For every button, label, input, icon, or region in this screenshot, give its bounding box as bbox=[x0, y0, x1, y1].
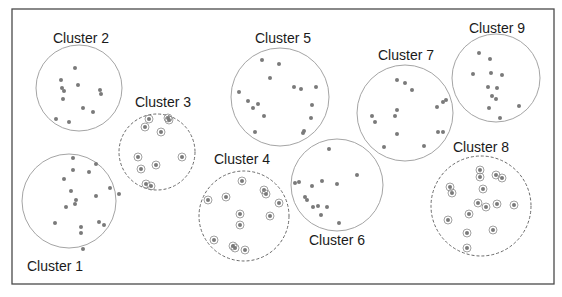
data-point bbox=[253, 130, 257, 134]
data-point bbox=[293, 181, 297, 185]
data-point bbox=[310, 103, 314, 107]
cluster-2: Cluster 2 bbox=[36, 30, 122, 131]
data-point bbox=[422, 144, 426, 148]
data-point bbox=[260, 58, 264, 62]
data-point bbox=[311, 205, 315, 209]
data-point bbox=[61, 97, 65, 101]
data-point bbox=[91, 110, 95, 114]
data-point bbox=[370, 114, 374, 118]
data-point bbox=[500, 73, 504, 77]
data-point bbox=[373, 120, 377, 124]
cluster-boundary bbox=[119, 114, 195, 190]
data-point bbox=[99, 92, 103, 96]
data-point bbox=[94, 194, 98, 198]
data-point bbox=[489, 71, 493, 75]
data-point bbox=[206, 198, 210, 202]
data-point bbox=[448, 185, 452, 189]
data-point bbox=[395, 132, 399, 136]
data-point bbox=[292, 85, 296, 89]
data-point bbox=[495, 86, 499, 90]
data-point bbox=[488, 57, 492, 61]
cluster-label: Cluster 3 bbox=[135, 94, 191, 110]
cluster-8: Cluster 8 bbox=[431, 139, 531, 256]
data-point bbox=[337, 221, 341, 225]
data-point bbox=[53, 221, 57, 225]
cluster-1: Cluster 1 bbox=[22, 154, 121, 274]
data-point bbox=[410, 88, 414, 92]
data-point bbox=[310, 184, 314, 188]
data-point bbox=[450, 191, 454, 195]
data-point bbox=[268, 214, 272, 218]
data-point bbox=[256, 102, 260, 106]
data-point bbox=[97, 220, 101, 224]
data-point bbox=[143, 125, 147, 129]
data-point bbox=[277, 201, 281, 205]
data-point bbox=[262, 114, 266, 118]
data-point bbox=[299, 87, 303, 91]
data-point bbox=[495, 202, 499, 206]
data-point bbox=[243, 248, 247, 252]
data-point bbox=[108, 186, 112, 190]
data-point bbox=[62, 177, 66, 181]
data-point bbox=[81, 247, 85, 251]
data-point bbox=[441, 130, 445, 134]
data-point bbox=[490, 94, 494, 98]
data-point bbox=[251, 106, 255, 110]
data-point bbox=[487, 106, 491, 110]
data-point bbox=[64, 205, 68, 209]
data-point bbox=[62, 89, 66, 93]
data-point bbox=[491, 228, 495, 232]
data-point bbox=[71, 156, 75, 160]
data-point bbox=[327, 147, 331, 151]
data-point bbox=[238, 223, 242, 227]
data-point bbox=[382, 145, 386, 149]
data-point bbox=[180, 155, 184, 159]
data-point bbox=[477, 51, 481, 55]
cluster-4: Cluster 4 bbox=[199, 151, 289, 261]
data-point bbox=[154, 163, 158, 167]
data-point bbox=[268, 76, 272, 80]
data-point bbox=[444, 98, 448, 102]
data-point bbox=[67, 120, 71, 124]
data-point bbox=[355, 173, 359, 177]
data-point bbox=[498, 116, 502, 120]
data-point bbox=[395, 78, 399, 82]
data-point bbox=[81, 106, 85, 110]
data-point bbox=[476, 201, 480, 205]
cluster-label: Cluster 6 bbox=[309, 232, 365, 248]
cluster-label: Cluster 1 bbox=[27, 258, 83, 274]
cluster-boundary bbox=[452, 34, 540, 122]
data-point bbox=[139, 167, 143, 171]
cluster-3: Cluster 3 bbox=[119, 94, 195, 190]
data-point bbox=[264, 192, 268, 196]
cluster-boundary bbox=[357, 65, 453, 161]
data-point bbox=[238, 212, 242, 216]
data-point bbox=[305, 198, 309, 202]
data-point bbox=[87, 170, 91, 174]
data-point bbox=[117, 192, 121, 196]
data-point bbox=[98, 88, 102, 92]
cluster-label: Cluster 9 bbox=[469, 20, 525, 36]
cluster-label: Cluster 8 bbox=[453, 139, 509, 155]
data-point bbox=[517, 104, 521, 108]
data-point bbox=[465, 231, 469, 235]
data-point bbox=[71, 168, 75, 172]
data-point bbox=[512, 203, 516, 207]
data-point bbox=[237, 90, 241, 94]
data-point bbox=[481, 187, 485, 191]
data-point bbox=[446, 218, 450, 222]
data-point bbox=[319, 213, 323, 217]
data-point bbox=[478, 175, 482, 179]
data-point bbox=[500, 176, 504, 180]
data-point bbox=[320, 179, 324, 183]
data-point bbox=[136, 155, 140, 159]
data-point bbox=[297, 180, 301, 184]
cluster-label: Cluster 5 bbox=[255, 30, 311, 46]
data-point bbox=[277, 62, 281, 66]
data-point bbox=[76, 83, 80, 87]
cluster-9: Cluster 9 bbox=[452, 20, 540, 122]
data-point bbox=[484, 205, 488, 209]
data-point bbox=[74, 198, 78, 202]
data-point bbox=[314, 85, 318, 89]
data-point bbox=[167, 118, 171, 122]
